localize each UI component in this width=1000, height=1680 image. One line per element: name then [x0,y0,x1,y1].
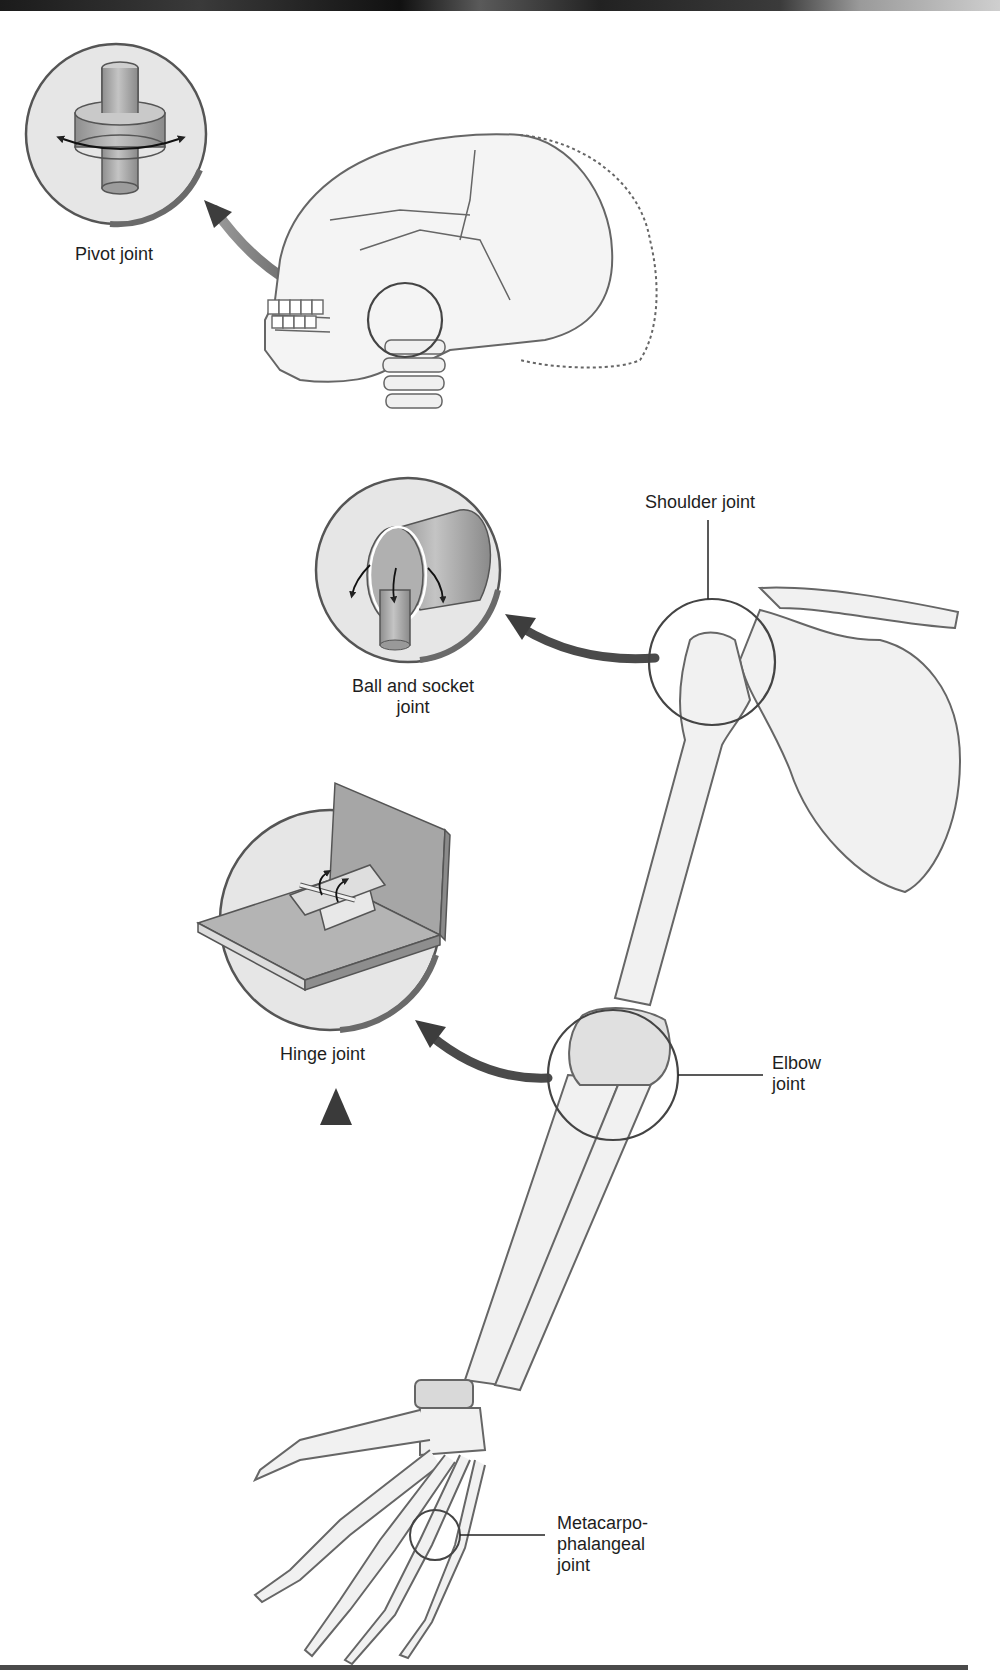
shoulder-joint-label: Shoulder joint [645,492,755,513]
hinge-joint-inset [198,783,450,1030]
hinge-joint-label: Hinge joint [280,1044,365,1065]
metacarpophalangeal-joint-label: Metacarpo- phalangeal joint [557,1513,648,1576]
skull-illustration [265,134,657,408]
pivot-joint-label: Pivot joint [75,244,153,265]
ball-and-socket-joint-inset [316,478,500,662]
hinge-pointer-arrow [430,1035,548,1078]
arm-skeleton-illustration [255,588,960,1664]
bottom-rule [0,1665,968,1670]
pivot-joint-inset [26,44,206,224]
elbow-joint-label: Elbow joint [772,1053,821,1095]
ball-and-socket-joint-label: Ball and socket joint [338,676,488,718]
